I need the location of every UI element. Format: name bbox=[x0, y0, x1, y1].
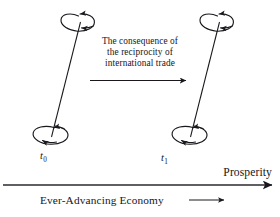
caption-line-1: The consequence of bbox=[88, 36, 192, 47]
caption-line-3: international trade bbox=[88, 58, 192, 69]
time-label-t0-subscript: 0 bbox=[43, 156, 47, 164]
time-label-t1: t1 bbox=[161, 152, 168, 163]
rotation-loop-top-t0 bbox=[61, 14, 94, 31]
axis-title-prosperity: Prosperity bbox=[223, 166, 272, 179]
consequence-caption: The consequence of the reciprocity of in… bbox=[88, 36, 192, 70]
top-axis-shaft-t0 bbox=[52, 22, 81, 137]
diagram-vector-layer bbox=[0, 0, 280, 217]
time-label-t0: t0 bbox=[40, 150, 47, 161]
spinning-top-t1 bbox=[172, 14, 233, 144]
top-axis-shaft-t1 bbox=[191, 22, 220, 137]
economy-label: Ever-Advancing Economy bbox=[40, 194, 164, 206]
rotation-loop-bottom-t1 bbox=[172, 126, 207, 144]
rotation-loop-bottom-t0 bbox=[33, 126, 68, 144]
rotation-loop-top-t1 bbox=[200, 14, 233, 31]
caption-line-2: the reciprocity of bbox=[88, 47, 192, 58]
spinning-top-t0 bbox=[33, 14, 94, 144]
time-label-t1-subscript: 1 bbox=[164, 158, 168, 166]
diagram-canvas: The consequence of the reciprocity of in… bbox=[0, 0, 280, 217]
